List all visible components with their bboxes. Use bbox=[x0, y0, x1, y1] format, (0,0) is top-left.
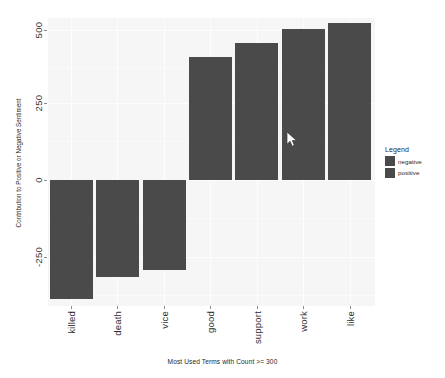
y-axis-title: Contribution to Positive or Negative Sen… bbox=[12, 40, 24, 285]
bar-death[interactable] bbox=[96, 180, 139, 277]
bar-support[interactable] bbox=[235, 43, 278, 180]
legend-title: Legend bbox=[385, 146, 443, 153]
legend-item-negative[interactable]: negative bbox=[385, 156, 443, 167]
y-tick-mark-250 bbox=[44, 103, 47, 104]
y-tick-mark-neg250 bbox=[44, 257, 47, 258]
x-tick-mark-support bbox=[257, 306, 258, 309]
legend: Legend negative positive bbox=[385, 146, 443, 179]
bar-vice[interactable] bbox=[143, 180, 186, 270]
bar-killed[interactable] bbox=[50, 180, 93, 299]
gridline-y-neg375 bbox=[48, 295, 375, 296]
x-axis-title: Most Used Terms with Count >= 300 bbox=[0, 358, 445, 365]
y-tick-mark-0 bbox=[44, 180, 47, 181]
bar-work[interactable] bbox=[282, 29, 325, 180]
plot-panel bbox=[48, 18, 375, 306]
x-tick-mark-killed bbox=[71, 306, 72, 309]
bar-good[interactable] bbox=[189, 57, 232, 180]
bar-like[interactable] bbox=[328, 23, 371, 180]
legend-label-positive: positive bbox=[398, 169, 419, 176]
gridline-y-500 bbox=[48, 30, 375, 31]
legend-label-negative: negative bbox=[398, 158, 422, 165]
x-tick-mark-death bbox=[117, 306, 118, 309]
y-tick-mark-500 bbox=[44, 30, 47, 31]
legend-swatch-positive bbox=[385, 168, 395, 178]
x-tick-mark-good bbox=[210, 306, 211, 309]
x-tick-mark-vice bbox=[164, 306, 165, 309]
legend-swatch-negative bbox=[385, 156, 395, 166]
x-tick-mark-work bbox=[303, 306, 304, 309]
bar-chart: Contribution to Positive or Negative Sen… bbox=[0, 0, 445, 378]
x-tick-mark-like bbox=[350, 306, 351, 309]
legend-item-positive[interactable]: positive bbox=[385, 167, 443, 178]
y-axis-title-text: Contribution to Positive or Negative Sen… bbox=[15, 98, 22, 227]
